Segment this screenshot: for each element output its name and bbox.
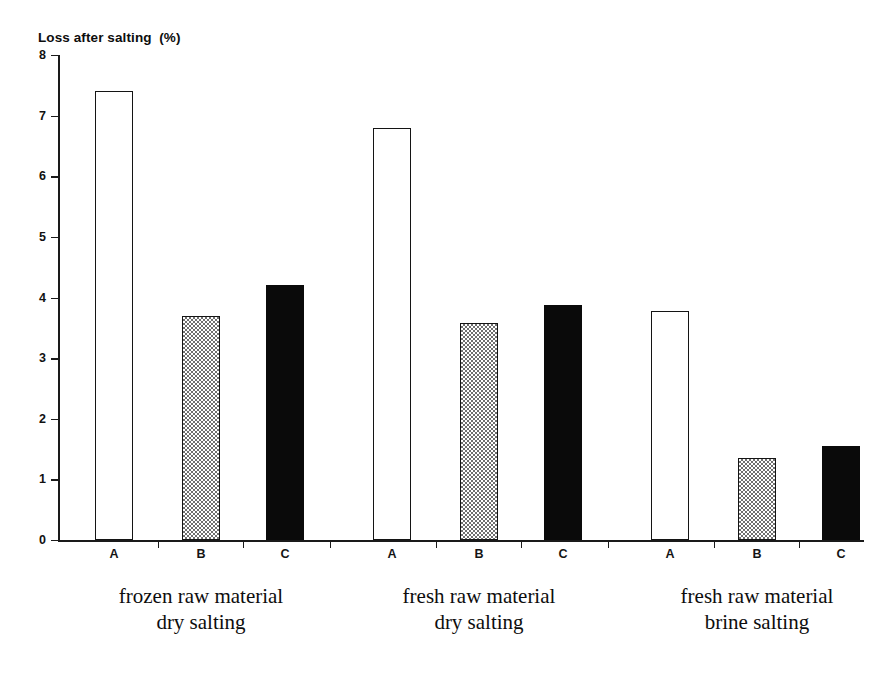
y-axis-tick-label-wrap: 0 bbox=[12, 540, 46, 541]
y-axis-tick bbox=[51, 358, 58, 359]
bar-label-c: C bbox=[821, 548, 861, 561]
bar-label-b: B bbox=[737, 548, 777, 561]
x-axis-tick bbox=[158, 541, 159, 548]
bar-label-c: C bbox=[543, 548, 583, 561]
bar-label-b: B bbox=[181, 548, 221, 561]
y-axis-line bbox=[58, 55, 60, 540]
x-axis-tick bbox=[714, 541, 715, 548]
y-axis-tick-label-wrap: 6 bbox=[12, 176, 46, 177]
group-caption-1: frozen raw materialdry salting bbox=[61, 583, 341, 636]
bar-dry-a bbox=[373, 128, 411, 540]
y-axis-tick-label-wrap: 2 bbox=[12, 419, 46, 420]
group-caption-2: fresh raw materialdry salting bbox=[339, 583, 619, 636]
group-caption-line-2: brine salting bbox=[617, 609, 874, 635]
y-axis-tick-label-wrap: 3 bbox=[12, 358, 46, 359]
y-axis-tick bbox=[51, 55, 58, 56]
y-axis-tick-label: 0 bbox=[12, 534, 46, 547]
group-caption-line-2: dry salting bbox=[61, 609, 341, 635]
y-axis-tick bbox=[51, 176, 58, 177]
y-axis-tick-label-wrap: 4 bbox=[12, 298, 46, 299]
y-axis-tick-label-wrap: 1 bbox=[12, 479, 46, 480]
group-caption-line-1: fresh raw material bbox=[339, 583, 619, 609]
y-axis-tick-label-wrap: 5 bbox=[12, 237, 46, 238]
y-axis-tick bbox=[51, 116, 58, 117]
x-axis-tick bbox=[243, 541, 244, 548]
y-axis-tick-label: 4 bbox=[12, 292, 46, 305]
y-axis-tick bbox=[51, 479, 58, 480]
y-axis-tick bbox=[51, 419, 58, 420]
x-axis-line bbox=[58, 540, 864, 542]
x-axis-tick bbox=[436, 541, 437, 548]
x-axis-tick bbox=[799, 541, 800, 548]
bar-dry-c bbox=[266, 285, 304, 540]
group-caption-line-1: frozen raw material bbox=[61, 583, 341, 609]
y-axis-tick bbox=[51, 237, 58, 238]
y-axis-tick-label: 7 bbox=[12, 110, 46, 123]
y-axis-tick-label: 8 bbox=[12, 49, 46, 62]
y-axis-tick-label-wrap: 8 bbox=[12, 55, 46, 56]
bar-dry-b bbox=[182, 316, 220, 540]
bar-dry-b bbox=[460, 323, 498, 540]
bar-chart: Loss after salting (%) 876543210 ABCABCA… bbox=[0, 0, 874, 677]
y-axis-tick-label: 3 bbox=[12, 352, 46, 365]
plot-area: 876543210 bbox=[58, 55, 864, 540]
y-axis-tick-label-wrap: 7 bbox=[12, 116, 46, 117]
bar-dry-a bbox=[95, 91, 133, 540]
group-caption-line-1: fresh raw material bbox=[617, 583, 874, 609]
x-axis-tick bbox=[608, 541, 609, 548]
bar-label-a: A bbox=[650, 548, 690, 561]
y-axis-tick-label: 2 bbox=[12, 413, 46, 426]
chart-title: Loss after salting (%) bbox=[38, 30, 181, 45]
bar-label-c: C bbox=[265, 548, 305, 561]
bar-brine-a bbox=[651, 311, 689, 540]
y-axis-tick bbox=[51, 540, 58, 541]
bar-label-b: B bbox=[459, 548, 499, 561]
group-caption-line-2: dry salting bbox=[339, 609, 619, 635]
bar-dry-c bbox=[544, 305, 582, 540]
y-axis-tick-label: 6 bbox=[12, 170, 46, 183]
bar-label-a: A bbox=[372, 548, 412, 561]
bar-brine-b bbox=[738, 458, 776, 540]
x-axis-tick bbox=[521, 541, 522, 548]
group-caption-3: fresh raw materialbrine salting bbox=[617, 583, 874, 636]
y-axis-tick bbox=[51, 298, 58, 299]
y-axis-tick-label: 5 bbox=[12, 231, 46, 244]
bar-label-a: A bbox=[94, 548, 134, 561]
bar-brine-c bbox=[822, 446, 860, 540]
y-axis-tick-label: 1 bbox=[12, 473, 46, 486]
x-axis-tick bbox=[330, 541, 331, 548]
